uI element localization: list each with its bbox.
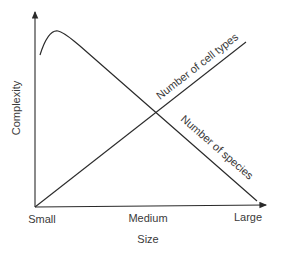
species-label: Number of species xyxy=(179,112,256,182)
y-axis-label: Complexity xyxy=(10,80,22,135)
species-curve xyxy=(40,31,257,201)
x-tick-small: Small xyxy=(28,213,56,225)
x-tick-large: Large xyxy=(234,211,262,223)
cell-types-line xyxy=(35,42,246,207)
x-axis xyxy=(35,205,266,207)
complexity-size-diagram: Complexity Small Medium Large Size Numbe… xyxy=(0,0,281,253)
x-tick-medium: Medium xyxy=(128,212,167,224)
x-axis-label: Size xyxy=(137,233,158,245)
cell-types-label: Number of cell types xyxy=(154,30,241,101)
